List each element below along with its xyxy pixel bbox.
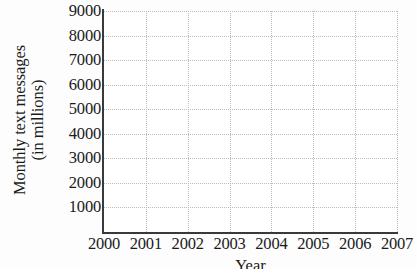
y-axis-tick-label: 9000 (52, 3, 101, 20)
x-axis-tick-label: 2007 (367, 234, 417, 253)
horizontal-gridline (104, 11, 397, 12)
horizontal-gridline (104, 36, 397, 37)
y-axis-tick-label: 1000 (52, 199, 101, 216)
horizontal-gridline (104, 85, 397, 86)
horizontal-gridline (104, 134, 397, 135)
vertical-gridline (355, 11, 356, 232)
y-axis-title: Monthly text messages (in millions) (0, 0, 58, 240)
y-axis-title-line-2: (in millions) (29, 45, 47, 195)
y-axis-tick-label: 4000 (52, 126, 101, 143)
y-axis-tick-label: 6000 (52, 76, 101, 93)
y-axis-tick-label: 5000 (52, 101, 101, 118)
plot-area (104, 11, 397, 232)
vertical-gridline (188, 11, 189, 232)
vertical-gridline (271, 11, 272, 232)
y-axis-tick-label: 8000 (52, 27, 101, 44)
y-axis-tick-label: 7000 (52, 52, 101, 69)
y-axis-line (102, 9, 104, 234)
vertical-gridline (146, 11, 147, 232)
y-axis-title-line-1: Monthly text messages (11, 45, 29, 195)
x-axis-tick-labels: 20002001200220032004200520062007 (0, 234, 417, 256)
chart-figure: Monthly text messages (in millions) 9000… (0, 0, 417, 269)
horizontal-gridline (104, 183, 397, 184)
vertical-gridline (397, 11, 398, 232)
horizontal-gridline (104, 60, 397, 61)
horizontal-gridline (104, 158, 397, 159)
y-axis-tick-label: 3000 (52, 150, 101, 167)
vertical-gridline (230, 11, 231, 232)
x-axis-title: Year (104, 256, 397, 269)
y-axis-title-text: Monthly text messages (in millions) (11, 45, 48, 195)
horizontal-gridline (104, 207, 397, 208)
y-axis-tick-labels: 900080007000600050004000300020001000 (52, 0, 101, 233)
vertical-gridline (313, 11, 314, 232)
y-axis-tick-label: 2000 (52, 175, 101, 192)
horizontal-gridline (104, 109, 397, 110)
